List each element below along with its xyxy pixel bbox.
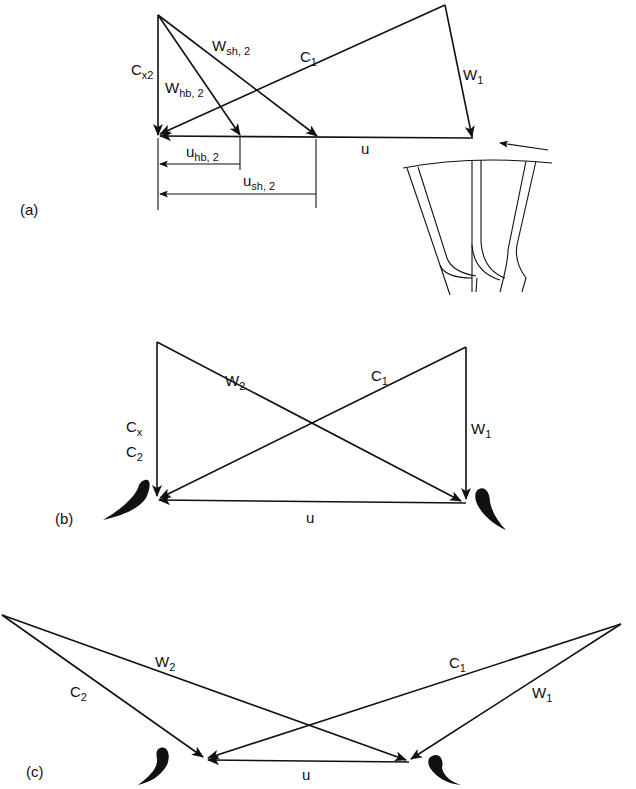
vector-u — [208, 760, 409, 762]
label-uhb2: uhb, 2 — [186, 143, 219, 163]
panel-c: (c) W2 C2 C1 W1 u — [2, 615, 621, 785]
rotor-blade-icon — [475, 488, 506, 530]
rotor-blade-icon — [428, 755, 461, 785]
rotor-blade-inset — [403, 143, 552, 295]
label-c1: C1 — [300, 48, 317, 68]
vector-c1 — [160, 5, 445, 134]
velocity-triangles-figure: (a) Cx2 Whb, 2 Wsh, 2 C1 W1 u uhb, 2 ush… — [0, 0, 636, 789]
vector-c2 — [2, 615, 203, 757]
vector-w2 — [2, 615, 406, 760]
panel-a-label: (a) — [20, 201, 38, 218]
vector-c1 — [160, 347, 466, 498]
label-c2: C2 — [70, 683, 87, 703]
label-cx2: Cx2 — [131, 61, 153, 81]
vector-u — [160, 136, 473, 138]
stator-blade-icon — [138, 747, 169, 785]
panel-a: (a) Cx2 Whb, 2 Wsh, 2 C1 W1 u uhb, 2 ush… — [20, 5, 552, 295]
vector-c1 — [208, 624, 621, 758]
label-u: u — [306, 509, 314, 526]
label-u: u — [302, 766, 310, 783]
label-wsh2: Wsh, 2 — [212, 37, 250, 57]
vector-w1 — [411, 624, 621, 759]
label-c1: C1 — [449, 654, 466, 674]
label-cx: Cx — [126, 418, 143, 438]
label-w2: W2 — [225, 372, 245, 392]
label-whb2: Whb, 2 — [165, 79, 204, 99]
panel-b: (b) W2 C1 Cx C2 W1 u — [55, 342, 506, 530]
panel-b-label: (b) — [55, 510, 73, 527]
stator-blade-icon — [103, 480, 150, 520]
label-c1: C1 — [371, 367, 388, 387]
label-c2: C2 — [126, 443, 143, 463]
label-u: u — [361, 140, 369, 157]
vector-u — [159, 500, 466, 503]
label-w1: W1 — [471, 420, 491, 440]
label-w2: W2 — [155, 653, 175, 673]
vector-wsh2 — [158, 15, 317, 136]
rotation-arrow-icon — [500, 143, 548, 150]
panel-c-label: (c) — [26, 763, 44, 780]
label-ush2: ush, 2 — [243, 172, 275, 192]
label-w1: W1 — [532, 684, 552, 704]
label-w1: W1 — [463, 66, 483, 86]
rotor-shroud-arc — [403, 160, 552, 168]
